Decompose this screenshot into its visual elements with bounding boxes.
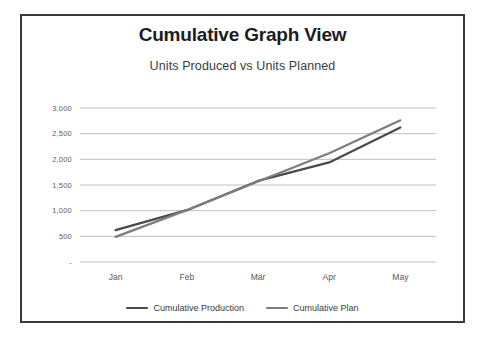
- series-line-cumulative-production: [116, 128, 401, 231]
- legend-entry[interactable]: Cumulative Production: [126, 303, 244, 313]
- legend-label: Cumulative Plan: [293, 303, 359, 313]
- chart-subtitle: Units Produced vs Units Planned: [22, 59, 463, 73]
- x-axis-tick-labels: JanFebMarAprMay: [109, 272, 409, 282]
- y-tick-label: 1,000: [52, 206, 72, 215]
- chart-legend: Cumulative ProductionCumulative Plan: [22, 303, 463, 313]
- line-chart-svg: -5001,0001,5002,0002,5003,000 JanFebMarA…: [22, 78, 463, 293]
- y-tick-label: -: [69, 258, 72, 267]
- grid-lines: [80, 108, 436, 262]
- series-line-cumulative-plan: [116, 120, 401, 237]
- x-tick-label: Mar: [251, 272, 266, 282]
- y-tick-label: 1,500: [52, 181, 72, 190]
- x-tick-label: Feb: [179, 272, 194, 282]
- legend-label: Cumulative Production: [153, 303, 244, 313]
- y-tick-label: 2,000: [52, 155, 72, 164]
- data-series-lines: [116, 120, 401, 237]
- y-tick-label: 3,000: [52, 104, 72, 113]
- plot-area: -5001,0001,5002,0002,5003,000 JanFebMarA…: [22, 78, 463, 293]
- chart-card: Cumulative Graph View Units Produced vs …: [20, 14, 465, 323]
- legend-swatch-icon: [126, 307, 148, 310]
- chart-title: Cumulative Graph View: [22, 24, 463, 46]
- x-tick-label: Apr: [323, 272, 336, 282]
- y-axis-tick-labels: -5001,0001,5002,0002,5003,000: [52, 104, 72, 267]
- legend-swatch-icon: [266, 307, 288, 310]
- x-tick-label: May: [392, 272, 409, 282]
- y-tick-label: 500: [59, 232, 72, 241]
- legend-entry[interactable]: Cumulative Plan: [266, 303, 359, 313]
- y-tick-label: 2,500: [52, 129, 72, 138]
- x-tick-label: Jan: [109, 272, 123, 282]
